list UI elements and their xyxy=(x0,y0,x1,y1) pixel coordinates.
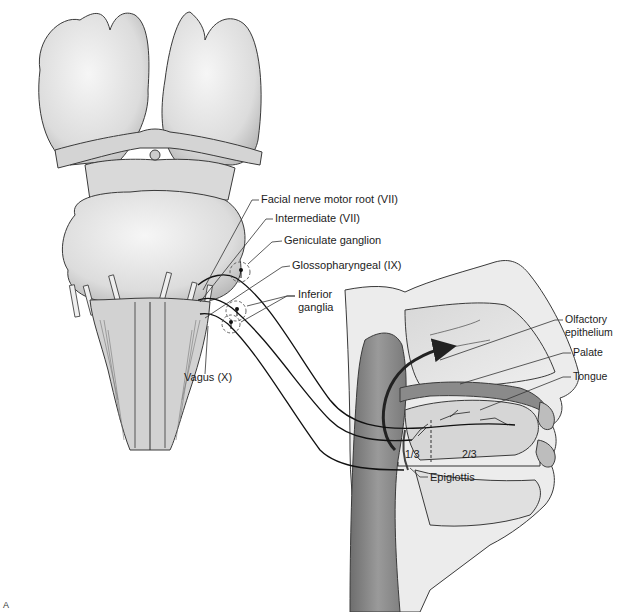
label-facial-nerve-motor-root: Facial nerve motor root (VII) xyxy=(261,193,398,206)
label-inferior-ganglia-line2: ganglia xyxy=(298,301,333,314)
label-inferior-ganglia-line1: Inferior xyxy=(298,288,332,301)
label-epiglottis: Epiglottis xyxy=(430,471,475,484)
label-olfactory-line2: epithelium xyxy=(565,326,613,339)
panel-letter: A xyxy=(3,600,9,610)
label-posterior-third: 1/3 xyxy=(405,448,420,461)
label-tongue: Tongue xyxy=(573,370,607,383)
label-vagus: Vagus (X) xyxy=(184,371,232,384)
brainstem xyxy=(39,12,262,450)
taste-pathway-figure: Facial nerve motor root (VII) Intermedia… xyxy=(0,0,623,612)
label-intermediate-nerve: Intermediate (VII) xyxy=(275,212,360,225)
label-geniculate-ganglion: Geniculate ganglion xyxy=(284,234,381,247)
label-anterior-two-thirds: 2/3 xyxy=(462,448,477,461)
mammillary xyxy=(150,150,160,160)
pons xyxy=(62,190,245,303)
label-palate: Palate xyxy=(573,346,603,359)
label-olfactory-line1: Olfactory xyxy=(565,313,607,326)
head-section xyxy=(345,261,579,612)
label-glossopharyngeal: Glossopharyngeal (IX) xyxy=(292,259,401,272)
